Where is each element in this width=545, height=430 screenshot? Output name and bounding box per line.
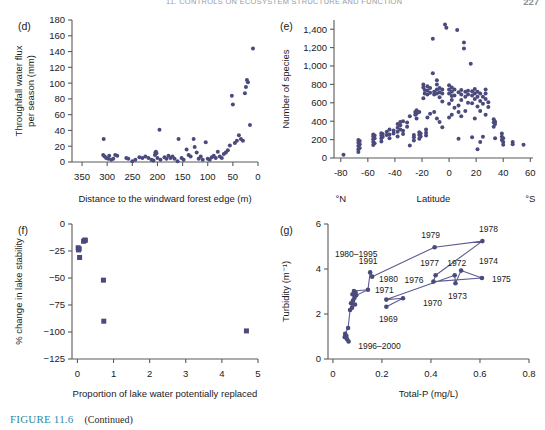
y-tick-label: 6 [316,218,321,229]
data-point [346,326,351,331]
x-tick-label: 0 [75,368,80,379]
data-point [111,157,115,161]
data-point [431,37,435,41]
x-tick-label: 200 [150,171,166,182]
data-point [522,143,526,147]
data-point [428,112,432,116]
y-tick-label: 4 [316,263,321,274]
data-point [396,134,400,138]
data-point [370,274,375,279]
figure-number: FIGURE 11.6 [10,413,74,425]
data-point [358,146,362,150]
data-point [373,141,377,145]
data-point [405,125,409,129]
data-point [450,113,454,117]
data-point [452,93,456,97]
data-point [459,114,463,118]
data-point [466,93,470,97]
data-point [457,104,461,108]
y-tick-label: −50 [49,272,65,283]
data-point [195,151,199,155]
x-tick-label: 0 [330,368,335,379]
data-point [392,128,396,132]
y-tick-label: 1,000 [303,60,327,71]
year-label-1971: 1971 [375,285,394,295]
data-point [478,109,482,113]
data-point [440,125,444,129]
data-point [177,137,181,141]
y-tick-label: 1,200 [303,42,327,53]
y-tick-label: −125 [44,353,65,364]
data-point [421,96,425,100]
x-axis-title: Total-P (mg/L) [399,388,458,399]
x-tick-label: 60 [525,167,536,178]
x-tick-label: -40 [388,167,402,178]
data-point [452,87,456,91]
chart-panel-f: (f)−125−100−75−50−250012345Proportion of… [0,210,272,405]
data-point [77,255,82,260]
data-point [101,278,106,283]
data-point [237,133,241,137]
data-point [435,116,439,120]
data-point [501,136,505,140]
x-tick-label: 150 [175,171,191,182]
data-point [133,158,137,162]
data-point [189,154,193,158]
data-point [231,102,235,106]
data-point [204,140,208,144]
data-point [428,91,432,95]
y-tick-label: 400 [311,116,327,127]
year-label-1979: 1979 [421,230,440,240]
data-point [349,301,354,306]
year-label-1972: 1972 [447,258,466,268]
x-tick-label: 0.6 [473,368,486,379]
panel-label-f: (f) [18,224,28,236]
y-tick-label: 100 [49,78,65,89]
data-point [419,132,423,136]
page-number: 227 [523,0,539,7]
x-tick-label: -80 [334,167,348,178]
x-tick-label: 3 [183,368,188,379]
x-axis-title: Proportion of lake water potentially rep… [73,388,258,399]
data-point [384,305,389,310]
data-point [433,273,438,278]
y-tick-label: −25 [49,245,65,256]
data-point [466,101,470,105]
data-point [480,239,485,244]
y-tick-label: 1,400 [303,24,327,35]
data-point [484,97,488,101]
y-tick-label: 40 [54,125,65,136]
data-point [412,133,416,137]
data-point [500,132,504,136]
data-point [475,95,479,99]
x-tick-label: 0.4 [424,368,437,379]
data-point [440,87,444,91]
year-label-1976: 1976 [404,275,423,285]
data-point [444,26,448,30]
x-tick-label: 40 [498,167,509,178]
data-point [473,116,477,120]
data-point [432,245,437,250]
year-label-1980: 1980 [379,274,398,284]
panel-label-g: (g) [280,224,293,236]
year-label-1973: 1973 [448,291,467,301]
data-point [341,153,345,157]
data-point [475,147,479,151]
figure-caption-text: (Continued) [85,414,133,425]
data-point [246,80,250,84]
x-axis-label-left: °N [335,193,346,204]
data-point [440,92,444,96]
year-label-1975: 1975 [492,274,511,284]
data-point [447,102,451,106]
x-tick-label: 250 [124,171,140,182]
data-point [408,144,412,148]
data-point [381,132,385,136]
data-point [115,154,119,158]
data-point [459,93,463,97]
data-point [481,102,485,106]
data-point [415,116,419,120]
data-point [228,143,232,147]
data-point [457,137,461,141]
data-point [126,157,130,161]
year-label-1978: 1978 [479,224,498,234]
